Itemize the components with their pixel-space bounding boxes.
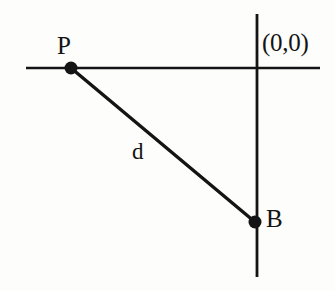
point-b-marker	[249, 216, 262, 229]
point-p-label: P	[57, 33, 71, 58]
segment-d-line	[71, 68, 255, 222]
point-b-label: B	[266, 206, 283, 231]
distance-d-label: d	[132, 140, 144, 163]
geometry-diagram: P B d (0,0)	[0, 0, 335, 291]
origin-coordinate-label: (0,0)	[262, 30, 308, 55]
point-p-marker	[65, 62, 78, 75]
